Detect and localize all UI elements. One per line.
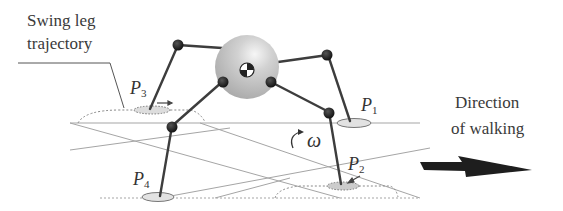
center-of-mass-icon — [240, 63, 254, 77]
joint-rear-right-hip — [266, 77, 277, 88]
joint-rear-left-knee — [167, 122, 178, 133]
swing-label-leader — [18, 63, 124, 108]
direction-label-line1: Direction — [455, 94, 519, 111]
direction-arrow-icon — [420, 156, 532, 177]
swing-leg-label-line2: trajectory — [27, 35, 92, 52]
joint-front-right-knee — [322, 50, 333, 61]
swing-leg-label-line1: Swing leg — [27, 12, 95, 29]
point-label-p3: P3 — [130, 79, 147, 99]
foot-p1 — [337, 119, 371, 128]
foot-p2 — [327, 182, 359, 190]
joint-rear-right-knee — [324, 108, 335, 119]
omega-label: ω — [307, 130, 321, 150]
ground-lines — [70, 123, 430, 198]
rotation-arrowhead — [298, 129, 304, 135]
point-label-p2: P2 — [348, 155, 365, 175]
direction-label-line2: of walking — [451, 120, 524, 137]
joint-front-left-knee — [173, 40, 184, 51]
foot-p4 — [142, 193, 174, 202]
point-label-p1: P1 — [361, 96, 378, 116]
joint-rear-left-hip — [218, 77, 229, 88]
robot-body — [215, 35, 279, 99]
point-label-p4: P4 — [133, 170, 150, 190]
